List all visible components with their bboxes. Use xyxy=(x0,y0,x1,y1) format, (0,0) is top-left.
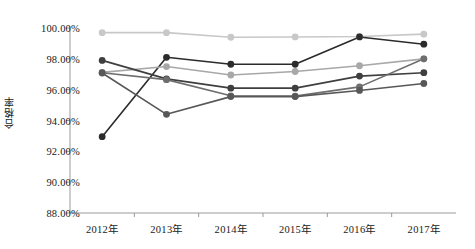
x-axis-tick-label: 2013年 xyxy=(150,221,183,236)
x-axis-tick-label: 2014年 xyxy=(215,221,248,236)
x-axis-tick-label: 2012年 xyxy=(86,221,119,236)
line-chart: 合格率 100.00%98.00%96.00%94.00%92.00%90.00… xyxy=(0,0,475,249)
x-axis-tick-label: 2017年 xyxy=(408,221,441,236)
x-axis-tick-labels: 2012年2013年2014年2015年2016年2017年 xyxy=(0,0,475,249)
x-axis-tick-label: 2016年 xyxy=(343,221,376,236)
x-axis-tick-label: 2015年 xyxy=(279,221,312,236)
